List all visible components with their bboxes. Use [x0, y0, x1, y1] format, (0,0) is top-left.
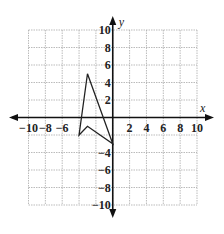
y-tick-label: −4: [98, 146, 111, 160]
y-tick-label: 4: [105, 76, 111, 90]
y-tick-label: 8: [105, 41, 111, 55]
x-tick-label: 8: [177, 121, 183, 135]
x-tick-label: 4: [143, 121, 149, 135]
y-tick-label: −10: [92, 198, 111, 212]
x-axis-label: x: [199, 101, 206, 115]
y-tick-label: 10: [99, 23, 111, 37]
x-tick-label: 10: [191, 121, 203, 135]
x-tick-label: −10: [19, 121, 38, 135]
x-axis-arrow-right-icon: [205, 114, 214, 121]
coordinate-plane: −10−8−6246810108642−4−6−8−10 x y: [0, 0, 224, 234]
y-tick-label: −6: [98, 163, 111, 177]
x-tick-label: −6: [56, 121, 69, 135]
y-tick-label: −8: [98, 181, 111, 195]
y-axis-label: y: [118, 15, 125, 29]
x-axis-arrow-left-icon: [9, 114, 18, 121]
x-tick-label: −8: [39, 121, 52, 135]
y-tick-label: 2: [105, 93, 111, 107]
x-tick-label: 2: [127, 121, 133, 135]
x-tick-label: 6: [160, 121, 166, 135]
y-tick-label: 6: [105, 58, 111, 72]
